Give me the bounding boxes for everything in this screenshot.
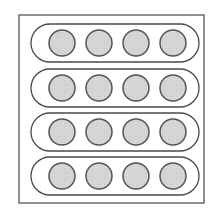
circle-2-2 [86,75,112,101]
circle-2-1 [49,75,75,101]
circle-4-3 [123,163,149,189]
circle-4-2 [86,163,112,189]
circle-3-2 [86,119,112,145]
pill-row-4 [31,157,199,195]
circle-1-3 [123,30,149,56]
circle-3-4 [160,119,186,145]
circle-3-3 [123,119,149,145]
diagram-canvas [0,0,222,213]
circle-4-1 [49,163,75,189]
circle-1-2 [86,30,112,56]
circle-3-1 [49,119,75,145]
circle-1-1 [49,30,75,56]
circle-2-4 [160,75,186,101]
pill-row-1 [31,24,199,62]
pill-row-3 [31,113,199,151]
pill-row-2 [31,69,199,107]
circle-4-4 [160,163,186,189]
circle-2-3 [123,75,149,101]
circle-1-4 [160,30,186,56]
